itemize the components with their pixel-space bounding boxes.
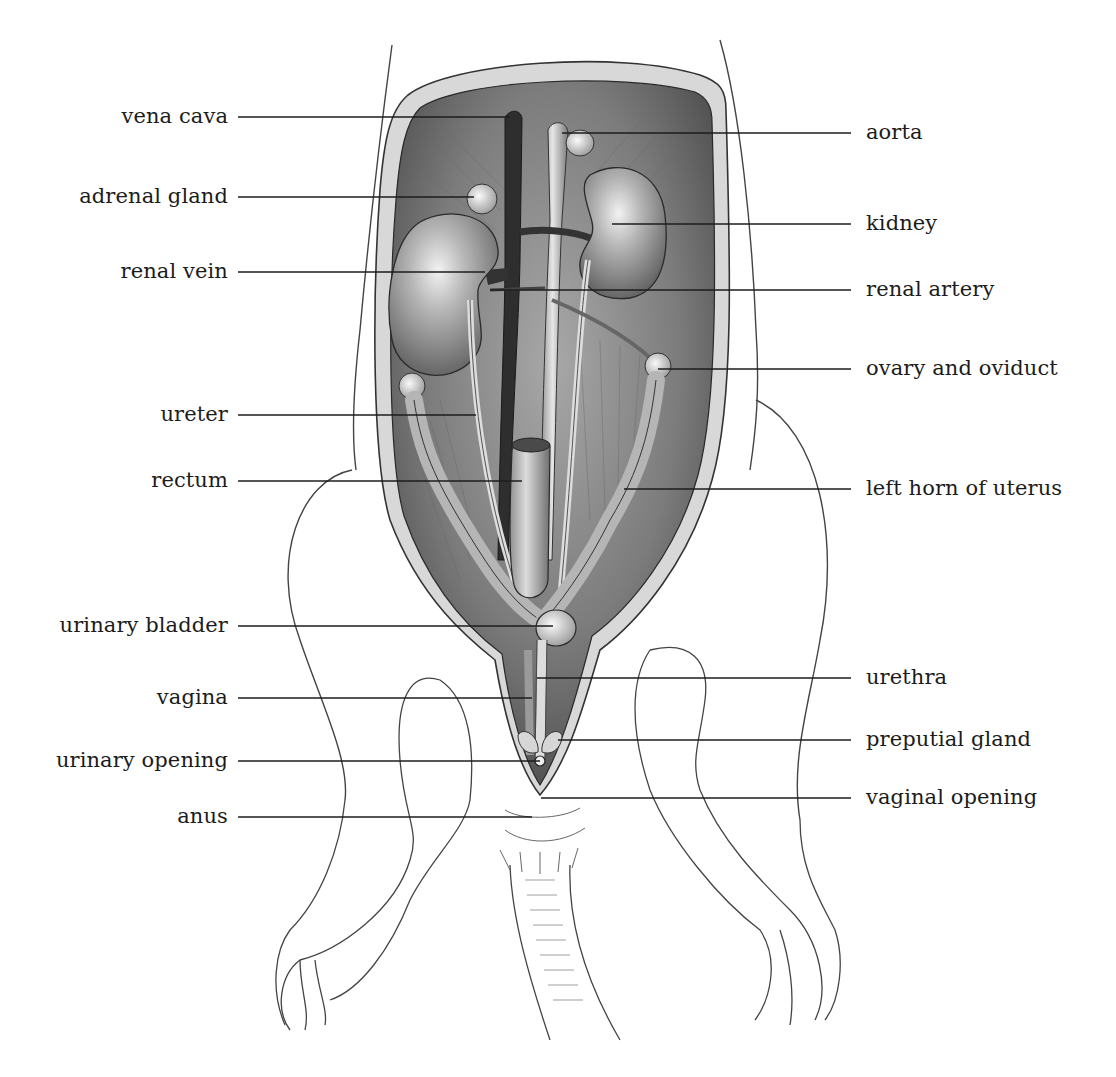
label-urinary-opening: urinary opening [56,750,228,771]
label-anus: anus [177,806,228,827]
label-vena-cava: vena cava [121,106,228,127]
label-vagina: vagina [157,687,228,708]
label-urethra: urethra [866,667,947,688]
label-ovary-and-oviduct: ovary and oviduct [866,358,1058,379]
label-ureter: ureter [161,404,229,425]
label-kidney: kidney [866,213,937,234]
label-left-horn-of-uterus: left horn of uterus [866,478,1062,499]
diagram-canvas: vena cava adrenal gland renal vein urete… [0,0,1116,1077]
label-renal-artery: renal artery [866,279,994,300]
label-adrenal-gland: adrenal gland [79,186,228,207]
label-aorta: aorta [866,122,923,143]
label-rectum: rectum [151,470,228,491]
label-renal-vein: renal vein [121,261,228,282]
label-urinary-bladder: urinary bladder [60,615,228,636]
leader-lines [0,0,1116,1077]
label-preputial-gland: preputial gland [866,729,1031,750]
label-vaginal-opening: vaginal opening [866,787,1037,808]
